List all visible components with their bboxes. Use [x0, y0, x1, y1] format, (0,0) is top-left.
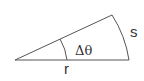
angle-label: Δθ — [75, 44, 92, 57]
radius-upper-line — [15, 15, 112, 60]
sector-graphic — [0, 0, 144, 81]
radius-label: r — [64, 61, 69, 76]
arc-s — [112, 15, 129, 60]
arc-length-label: s — [130, 24, 138, 39]
sector-diagram: Δθ s r — [0, 0, 144, 81]
angle-arc — [60, 39, 67, 60]
